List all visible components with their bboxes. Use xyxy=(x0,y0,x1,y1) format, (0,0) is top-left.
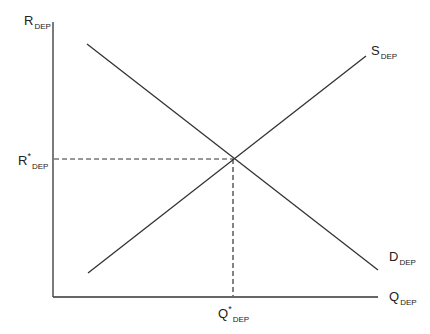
x-axis-label-main: Q xyxy=(389,289,399,304)
supply-curve xyxy=(88,56,366,273)
demand-label-main: D xyxy=(389,249,398,264)
x-axis-label: QDEP xyxy=(389,290,417,303)
supply-label-main: S xyxy=(371,43,380,58)
equilibrium-rate-label-subscript: DEP xyxy=(32,162,48,171)
equilibrium-quantity-label-subscript: DEP xyxy=(233,315,249,324)
equilibrium-rate-label-main: R xyxy=(18,153,27,168)
y-axis-label: RDEP xyxy=(24,14,51,27)
equilibrium-rate-label: R*DEP xyxy=(18,153,48,167)
demand-curve xyxy=(87,44,378,270)
demand-label: DDEP xyxy=(389,250,416,263)
y-axis-label-subscript: DEP xyxy=(34,22,50,31)
x-axis-label-subscript: DEP xyxy=(400,298,416,307)
equilibrium-quantity-label-main: Q xyxy=(218,306,228,321)
supply-label: SDEP xyxy=(371,44,397,57)
equilibrium-quantity-label: Q*DEP xyxy=(218,306,249,320)
equilibrium-quantity-label-star: * xyxy=(228,304,232,314)
supply-label-subscript: DEP xyxy=(381,52,397,61)
demand-label-subscript: DEP xyxy=(399,258,415,267)
diagram-canvas xyxy=(0,0,430,334)
equilibrium-rate-label-star: * xyxy=(27,151,31,161)
y-axis-label-main: R xyxy=(24,13,33,28)
